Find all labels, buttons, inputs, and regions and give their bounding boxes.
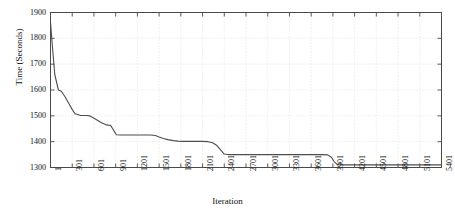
x-tick-label: 901 [119,159,128,171]
x-tick-label: 1201 [140,155,149,171]
x-tick-label: 2401 [227,155,236,171]
convergence-chart-figure: 1300140015001600170018001900 13016019011… [0,0,455,217]
x-tick-label: 1501 [162,155,171,171]
x-tick-label: 301 [75,159,84,171]
x-tick-label: 4201 [358,155,367,171]
x-tick-label: 2701 [249,155,258,171]
x-tick-label: 5401 [445,155,454,171]
x-tick-label: 4801 [401,155,410,171]
x-tick-label: 3601 [314,155,323,171]
x-tick-label: 5101 [423,155,432,171]
y-tick-label: 1500 [12,111,46,120]
y-tick-label: 1300 [12,163,46,172]
x-tick-label: 3901 [336,155,345,171]
x-tick-label: 4501 [379,155,388,171]
grid-lines [51,13,442,168]
x-tick-label: 3001 [271,155,280,171]
x-tick-label: 601 [97,159,106,171]
y-axis-title: Time (Seconds) [14,9,24,105]
x-tick-label: 3301 [292,155,301,171]
x-tick-label: 1801 [184,155,193,171]
x-tick-label: 2101 [206,155,215,171]
y-tick-label: 1400 [12,137,46,146]
x-axis-title: Iteration [0,196,455,206]
chart-plot-area [0,0,455,217]
x-tick-label: 1 [54,167,63,171]
